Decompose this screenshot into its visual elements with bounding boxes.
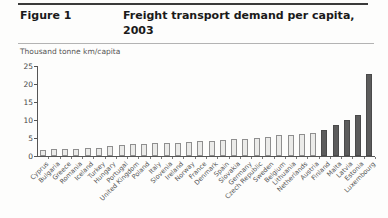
y-tick-label: 25 bbox=[7, 62, 33, 71]
x-tick-mark bbox=[341, 157, 342, 159]
bar-france bbox=[197, 141, 203, 156]
bar-romania bbox=[73, 149, 79, 156]
x-tick-mark bbox=[240, 157, 241, 159]
figure-panel: Figure 1 Freight transport demand per ca… bbox=[0, 0, 388, 218]
x-tick-mark bbox=[105, 157, 106, 159]
bar-poland bbox=[141, 144, 147, 156]
x-tick-mark bbox=[285, 157, 286, 159]
x-tick-mark bbox=[319, 157, 320, 159]
x-tick-mark bbox=[82, 157, 83, 159]
bar-netherlands bbox=[299, 134, 305, 156]
x-tick-mark bbox=[375, 157, 376, 159]
x-tick-mark bbox=[274, 157, 275, 159]
x-tick-mark bbox=[150, 157, 151, 159]
bar-germany bbox=[242, 139, 248, 156]
x-tick-mark bbox=[251, 157, 252, 159]
bar-norway bbox=[186, 142, 192, 156]
bar-slovenia bbox=[164, 143, 170, 156]
bar-czech-republic bbox=[254, 138, 260, 156]
y-tick-label: 5 bbox=[7, 134, 33, 143]
bar-slovakia bbox=[231, 139, 237, 156]
bar-turkey bbox=[96, 148, 102, 156]
bar-latvia bbox=[344, 120, 350, 156]
x-tick-mark bbox=[172, 157, 173, 159]
bar-united-kingdom bbox=[130, 144, 136, 156]
bar-austria bbox=[310, 133, 316, 156]
bar-chart: 0510152025CyprusBulgariaGreeceRomaniaIce… bbox=[0, 0, 388, 218]
x-tick-mark bbox=[229, 157, 230, 159]
x-tick-mark bbox=[93, 157, 94, 159]
x-tick-mark bbox=[138, 157, 139, 159]
y-tick-mark bbox=[34, 66, 37, 67]
x-tick-mark bbox=[206, 157, 207, 159]
bar-sweden bbox=[265, 137, 271, 156]
y-tick-mark bbox=[34, 156, 37, 157]
x-tick-mark bbox=[364, 157, 365, 159]
x-tick-mark bbox=[116, 157, 117, 159]
bar-iceland bbox=[85, 148, 91, 156]
x-tick-mark bbox=[71, 157, 72, 159]
x-tick-mark bbox=[48, 157, 49, 159]
x-tick-mark bbox=[127, 157, 128, 159]
bar-hungary bbox=[107, 146, 113, 156]
x-tick-mark bbox=[330, 157, 331, 159]
x-tick-mark bbox=[262, 157, 263, 159]
bar-lithuania bbox=[288, 135, 294, 156]
bar-luxembourg bbox=[366, 74, 372, 156]
x-tick-mark bbox=[195, 157, 196, 159]
y-tick-label: 10 bbox=[7, 116, 33, 125]
bar-cyprus bbox=[40, 150, 46, 156]
y-tick-label: 15 bbox=[7, 98, 33, 107]
y-axis-line bbox=[37, 66, 38, 156]
bar-spain bbox=[220, 140, 226, 156]
y-tick-mark bbox=[34, 84, 37, 85]
bar-ireland bbox=[175, 143, 181, 156]
bar-bulgaria bbox=[51, 149, 57, 156]
bar-portugal bbox=[119, 145, 125, 156]
x-tick-mark bbox=[183, 157, 184, 159]
y-tick-mark bbox=[34, 120, 37, 121]
bar-italy bbox=[152, 143, 158, 156]
x-tick-mark bbox=[161, 157, 162, 159]
y-tick-label: 0 bbox=[7, 152, 33, 161]
y-tick-mark bbox=[34, 138, 37, 139]
x-tick-mark bbox=[352, 157, 353, 159]
x-tick-mark bbox=[296, 157, 297, 159]
y-tick-mark bbox=[34, 102, 37, 103]
bar-greece bbox=[62, 149, 68, 156]
y-tick-label: 20 bbox=[7, 80, 33, 89]
bar-malta bbox=[333, 125, 339, 156]
bar-estonia bbox=[355, 115, 361, 156]
bar-finland bbox=[321, 130, 327, 156]
x-tick-mark bbox=[307, 157, 308, 159]
bar-denmark bbox=[209, 141, 215, 156]
bar-belgium bbox=[276, 135, 282, 156]
x-tick-mark bbox=[60, 157, 61, 159]
x-tick-mark bbox=[217, 157, 218, 159]
